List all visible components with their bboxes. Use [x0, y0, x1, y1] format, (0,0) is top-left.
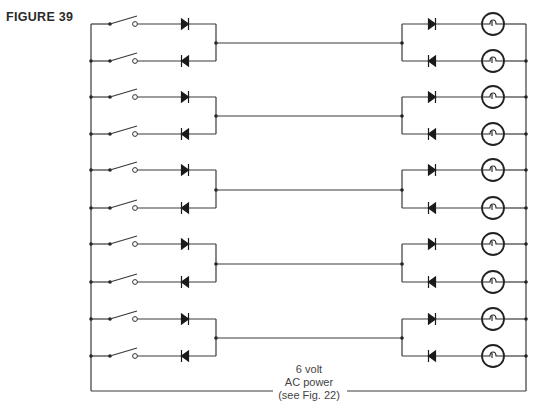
lamp-icon: [482, 197, 504, 219]
channel-1: [89, 13, 528, 72]
diode-icon: [182, 238, 189, 250]
diode-icon: [429, 55, 436, 67]
switch-icon[interactable]: [108, 53, 137, 63]
power-reference: (see Fig. 22): [249, 389, 369, 402]
channels: [89, 13, 528, 367]
lamp-icon: [482, 308, 504, 330]
lamp-icon: [482, 345, 504, 367]
switch-icon[interactable]: [108, 274, 137, 284]
power-type: AC power: [249, 376, 369, 389]
power-voltage: 6 volt: [249, 363, 369, 376]
diode-icon: [182, 164, 189, 176]
switch-icon[interactable]: [108, 162, 137, 172]
switch-icon[interactable]: [108, 16, 137, 26]
lamp-icon: [482, 271, 504, 293]
power-source-label: 6 volt AC power (see Fig. 22): [249, 363, 369, 402]
channel-5: [89, 308, 528, 367]
switch-icon[interactable]: [108, 311, 137, 321]
diode-icon: [182, 128, 189, 140]
diode-icon: [429, 18, 436, 30]
lamp-icon: [482, 123, 504, 145]
diode-icon: [429, 350, 436, 362]
diode-icon: [182, 313, 189, 325]
diode-icon: [182, 276, 189, 288]
circuit-diagram: [0, 0, 540, 410]
lamp-icon: [482, 13, 504, 35]
channel-2: [89, 86, 528, 145]
diode-icon: [429, 276, 436, 288]
switch-icon[interactable]: [108, 236, 137, 246]
diode-icon: [429, 164, 436, 176]
diode-icon: [182, 55, 189, 67]
lamp-icon: [482, 233, 504, 255]
lamp-icon: [482, 50, 504, 72]
diode-icon: [429, 91, 436, 103]
diode-icon: [429, 238, 436, 250]
diode-icon: [429, 313, 436, 325]
diode-icon: [182, 18, 189, 30]
switch-icon[interactable]: [108, 348, 137, 358]
switch-icon[interactable]: [108, 126, 137, 136]
diode-icon: [182, 350, 189, 362]
switch-icon[interactable]: [108, 89, 137, 99]
diode-icon: [182, 91, 189, 103]
switch-icon[interactable]: [108, 200, 137, 210]
diode-icon: [429, 128, 436, 140]
lamp-icon: [482, 86, 504, 108]
channel-3: [89, 159, 528, 219]
diode-icon: [429, 202, 436, 214]
channel-4: [89, 233, 528, 293]
lamp-icon: [482, 159, 504, 181]
diode-icon: [182, 202, 189, 214]
